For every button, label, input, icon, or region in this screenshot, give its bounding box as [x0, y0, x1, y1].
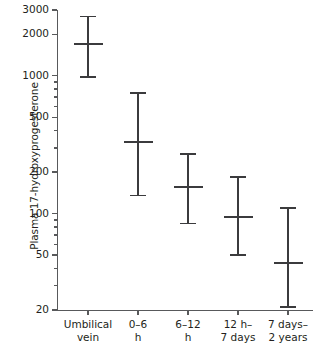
- y-tick-label-3000: 3000: [3, 3, 49, 15]
- y-tick-20: [52, 309, 57, 310]
- y-tick-3000: [52, 9, 57, 10]
- whisker-line: [87, 16, 88, 77]
- y-tick-label-100: 100: [3, 207, 49, 219]
- whisker-cap-high: [80, 16, 96, 18]
- y-tick-label-50: 50: [3, 248, 49, 260]
- median-bar: [124, 141, 153, 143]
- y-tick-minor: [54, 219, 57, 220]
- whisker-cap-high: [130, 92, 146, 94]
- x-axis-line: [57, 310, 313, 311]
- whisker-line: [187, 154, 188, 223]
- y-tick-minor: [54, 244, 57, 245]
- y-tick-minor: [54, 88, 57, 89]
- whisker-cap-low: [280, 306, 296, 308]
- y-tick-minor: [54, 96, 57, 97]
- x-tick-2: [187, 310, 188, 315]
- y-tick-minor: [54, 130, 57, 131]
- median-bar: [274, 262, 303, 264]
- median-bar: [74, 43, 103, 45]
- y-tick-2000: [52, 34, 57, 35]
- whisker-cap-high: [230, 176, 246, 178]
- whisker-line: [137, 93, 138, 196]
- y-tick-100: [52, 213, 57, 214]
- whisker-cap-high: [180, 153, 196, 155]
- y-tick-minor: [54, 147, 57, 148]
- y-tick-500: [52, 117, 57, 118]
- whisker-cap-low: [180, 223, 196, 225]
- y-axis-line: [57, 10, 58, 311]
- whisker-cap-high: [280, 207, 296, 209]
- y-tick-label-20: 20: [3, 303, 49, 315]
- y-tick-minor: [54, 285, 57, 286]
- whisker-cap-low: [230, 254, 246, 256]
- y-tick-minor: [54, 81, 57, 82]
- plot-area: 3000200010005002001005020 Umbilical vein…: [57, 0, 313, 311]
- x-tick-1: [137, 310, 138, 315]
- median-bar: [174, 186, 203, 188]
- y-tick-label-500: 500: [3, 110, 49, 122]
- y-tick-label-200: 200: [3, 165, 49, 177]
- y-tick-50: [52, 254, 57, 255]
- y-tick-minor: [54, 268, 57, 269]
- y-tick-label-1000: 1000: [3, 69, 49, 81]
- x-tick-0: [87, 310, 88, 315]
- whisker-cap-low: [130, 195, 146, 197]
- y-tick-200: [52, 171, 57, 172]
- y-tick-1000: [52, 75, 57, 76]
- x-tick-3: [237, 310, 238, 315]
- y-tick-minor: [54, 106, 57, 107]
- x-tick-4: [287, 310, 288, 315]
- y-tick-minor: [54, 226, 57, 227]
- y-tick-label-2000: 2000: [3, 27, 49, 39]
- whisker-line: [287, 208, 288, 307]
- whisker-cap-low: [80, 76, 96, 78]
- y-tick-minor: [54, 234, 57, 235]
- median-bar: [224, 216, 253, 218]
- x-tick-label-4: 7 days– 2 years: [251, 318, 321, 343]
- chart-figure: Plasma 17-hydroxyprogesterone 3000200010…: [0, 0, 321, 351]
